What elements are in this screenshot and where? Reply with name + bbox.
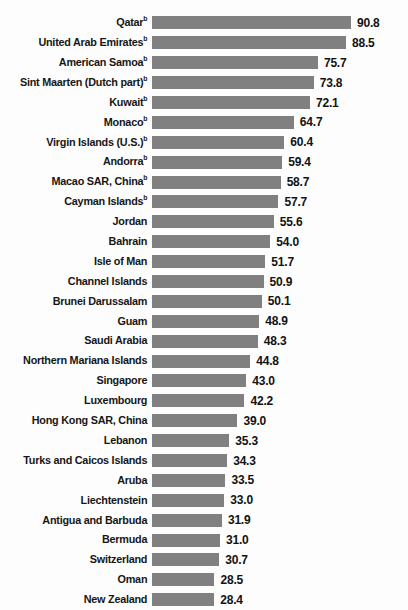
bar xyxy=(152,255,265,268)
bar-row: Qatarb90.8 xyxy=(0,13,408,33)
bar xyxy=(152,136,284,149)
value-label: 39.0 xyxy=(243,415,266,427)
category-name: Guam xyxy=(118,315,148,327)
value-label: 60.4 xyxy=(290,136,313,148)
category-name: Andorra xyxy=(103,155,143,167)
bar xyxy=(152,573,214,586)
bar xyxy=(152,494,224,507)
bar-track: 39.0 xyxy=(152,411,408,431)
bar xyxy=(152,454,227,467)
bar-row: Saudi Arabia48.3 xyxy=(0,331,408,351)
footnote-marker: b xyxy=(143,193,147,202)
footnote-marker: b xyxy=(143,114,147,123)
bar xyxy=(152,275,264,288)
bar xyxy=(152,156,282,169)
bar-track: 35.3 xyxy=(152,431,408,451)
bar xyxy=(152,414,237,427)
footnote-marker: b xyxy=(143,54,147,63)
bar xyxy=(152,215,274,228)
category-label: Luxembourg xyxy=(8,395,152,406)
value-label: 28.4 xyxy=(220,594,243,606)
category-label: Kuwaitb xyxy=(8,97,152,108)
category-label: United Arab Emiratesb xyxy=(8,37,152,48)
bar-row: Virgin Islands (U.S.)b60.4 xyxy=(0,132,408,152)
value-label: 90.8 xyxy=(357,17,380,29)
bar-row: Macao SAR, Chinab58.7 xyxy=(0,172,408,192)
value-label: 73.8 xyxy=(320,77,343,89)
bar xyxy=(152,355,250,368)
bar-track: 58.7 xyxy=(152,172,408,192)
bar-row: Bahrain54.0 xyxy=(0,232,408,252)
bar-row: Northern Mariana Islands44.8 xyxy=(0,351,408,371)
category-name: Singapore xyxy=(96,374,147,386)
category-label: Northern Mariana Islands xyxy=(8,355,152,366)
bar-track: 55.6 xyxy=(152,212,408,232)
category-label: Saudi Arabia xyxy=(8,335,152,346)
value-label: 51.7 xyxy=(271,256,294,268)
bar xyxy=(152,176,281,189)
value-label: 33.5 xyxy=(231,474,254,486)
bar-track: 64.7 xyxy=(152,112,408,132)
category-label: American Samoab xyxy=(8,57,152,68)
category-label: Lebanon xyxy=(8,435,152,446)
value-label: 48.9 xyxy=(265,315,288,327)
category-name: Turks and Caicos Islands xyxy=(23,454,147,466)
bar xyxy=(152,315,259,328)
bar-track: 34.3 xyxy=(152,451,408,471)
value-label: 55.6 xyxy=(280,216,303,228)
bar-track: 50.1 xyxy=(152,291,408,311)
category-name: Oman xyxy=(118,573,148,585)
category-label: Switzerland xyxy=(8,554,152,565)
bar-row: Monacob64.7 xyxy=(0,112,408,132)
category-label: Aruba xyxy=(8,475,152,486)
value-label: 48.3 xyxy=(264,335,287,347)
bar xyxy=(152,295,262,308)
bar-row: Oman28.5 xyxy=(0,570,408,590)
category-name: Channel Islands xyxy=(68,275,147,287)
bar-track: 75.7 xyxy=(152,53,408,73)
value-label: 31.9 xyxy=(228,514,251,526)
bar-track: 72.1 xyxy=(152,93,408,113)
bar-row: Channel Islands50.9 xyxy=(0,272,408,292)
bar-track: 28.5 xyxy=(152,570,408,590)
category-label: Andorrab xyxy=(8,156,152,167)
bar xyxy=(152,593,214,606)
bar-track: 59.4 xyxy=(152,152,408,172)
bar xyxy=(152,116,294,129)
value-label: 35.3 xyxy=(235,435,258,447)
bar-track: 48.3 xyxy=(152,331,408,351)
bar xyxy=(152,16,351,29)
bar-row: Cayman Islandsb57.7 xyxy=(0,192,408,212)
value-label: 50.9 xyxy=(270,276,293,288)
value-label: 34.3 xyxy=(233,455,256,467)
category-label: Bermuda xyxy=(8,534,152,545)
category-name: Sint Maarten (Dutch part) xyxy=(20,76,143,88)
footnote-marker: b xyxy=(143,14,147,23)
category-name: Monaco xyxy=(104,116,143,128)
category-name: Qatar xyxy=(116,16,143,28)
footnote-marker: b xyxy=(143,74,147,83)
value-label: 33.0 xyxy=(230,494,253,506)
category-label: Virgin Islands (U.S.)b xyxy=(8,137,152,148)
value-label: 64.7 xyxy=(300,116,323,128)
bar-row: Lebanon35.3 xyxy=(0,431,408,451)
category-label: Isle of Man xyxy=(8,256,152,267)
value-label: 43.0 xyxy=(252,375,275,387)
category-label: Macao SAR, Chinab xyxy=(8,176,152,187)
bar-track: 30.7 xyxy=(152,550,408,570)
category-label: Liechtenstein xyxy=(8,495,152,506)
value-label: 59.4 xyxy=(288,156,311,168)
bar xyxy=(152,195,278,208)
category-label: Qatarb xyxy=(8,17,152,28)
value-label: 31.0 xyxy=(226,534,249,546)
bar-track: 33.5 xyxy=(152,470,408,490)
category-name: Switzerland xyxy=(90,553,148,565)
value-label: 57.7 xyxy=(284,196,307,208)
bar-row: Kuwaitb72.1 xyxy=(0,93,408,113)
bar-track: 48.9 xyxy=(152,311,408,331)
bar-track: 44.8 xyxy=(152,351,408,371)
bar-track: 31.9 xyxy=(152,510,408,530)
bar-row: Brunei Darussalam50.1 xyxy=(0,291,408,311)
category-name: Luxembourg xyxy=(84,394,147,406)
bar-track: 33.0 xyxy=(152,490,408,510)
